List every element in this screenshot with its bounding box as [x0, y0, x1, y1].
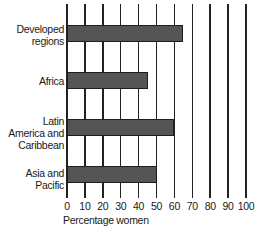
x-tick-label: 60 — [169, 200, 180, 212]
x-tick-label: 100 — [238, 200, 255, 212]
x-tick-label: 0 — [64, 200, 70, 212]
bar — [67, 25, 183, 42]
x-tick-label: 70 — [187, 200, 198, 212]
x-tick-label: 40 — [133, 200, 144, 212]
x-tick-label: 20 — [97, 200, 108, 212]
bar — [67, 119, 174, 136]
x-tick-label: 80 — [205, 200, 216, 212]
gridline — [192, 4, 194, 198]
bar — [67, 72, 148, 89]
x-axis-label: Percentage women — [63, 214, 149, 226]
x-tick-label: 50 — [151, 200, 162, 212]
bar-chart: Developed regions Africa Latin America a… — [0, 0, 257, 234]
x-tick-label: 90 — [223, 200, 234, 212]
category-label-developed-regions: Developed regions — [16, 23, 64, 47]
x-tick-label: 30 — [115, 200, 126, 212]
category-label-asia-pacific: Asia and Pacific — [26, 167, 64, 191]
gridline — [227, 4, 229, 198]
category-label-latin-america: Latin America and Caribbean — [8, 115, 64, 151]
gridline — [209, 4, 211, 198]
bar — [67, 166, 157, 183]
gridline — [245, 4, 247, 198]
category-label-africa: Africa — [39, 75, 64, 87]
x-tick-label: 10 — [79, 200, 90, 212]
